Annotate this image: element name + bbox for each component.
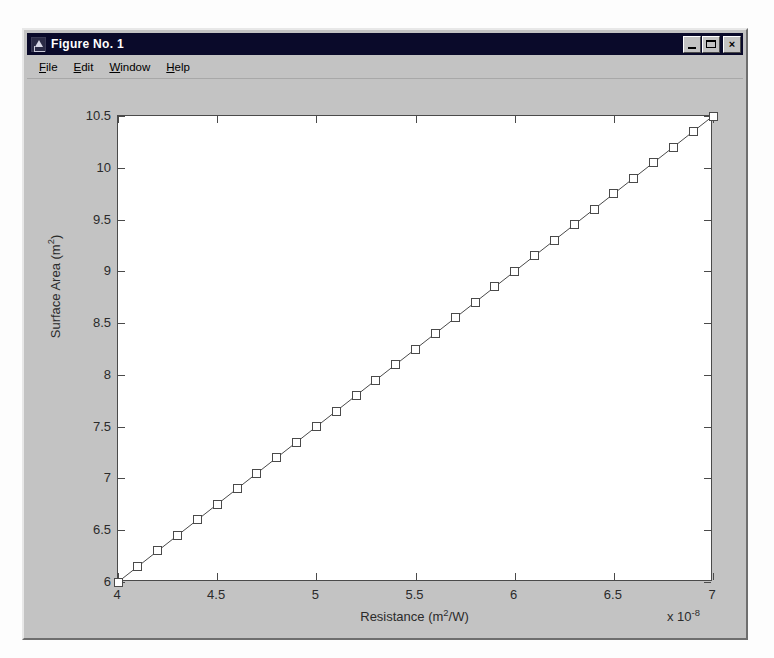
y-tick-label: 6.5 (69, 522, 111, 537)
x-tick-label: 6 (510, 587, 517, 602)
y-tick-label: 9 (69, 263, 111, 278)
x-axis-exponent-multiplier: x 10-8 (667, 609, 700, 624)
menu-item-edit[interactable]: Edit (67, 59, 103, 75)
y-tick-label: 8.5 (69, 315, 111, 330)
menu-help-rest: elp (175, 61, 190, 73)
close-button[interactable]: × (723, 36, 741, 53)
x-tick (713, 573, 714, 580)
window-controls: × (682, 36, 741, 53)
menu-bar: File Edit Window Help (27, 56, 743, 77)
menu-file-mnemonic: F (39, 61, 46, 73)
data-line (118, 116, 713, 582)
menu-window-rest: indow (120, 61, 150, 73)
maximize-button[interactable] (702, 36, 720, 53)
menu-edit-rest: dit (81, 61, 93, 73)
y-tick-label: 10.5 (69, 108, 111, 123)
menu-item-window[interactable]: Window (102, 59, 159, 75)
y-tick (118, 582, 125, 583)
title-bar: Figure No. 1 × (27, 33, 743, 55)
x-axis-label: Resistance (m2/W) (117, 609, 712, 624)
minimize-button[interactable] (683, 36, 701, 53)
x-tick-top (713, 116, 714, 123)
desktop-background: Figure No. 1 × File Edit (0, 0, 774, 658)
y-tick-label: 6 (69, 574, 111, 589)
maximize-icon (706, 40, 716, 48)
x-tick-label: 7 (708, 587, 715, 602)
x-tick-label: 5 (312, 587, 319, 602)
x-tick-label: 6.5 (604, 587, 622, 602)
y-tick-label: 7.5 (69, 418, 111, 433)
close-icon: × (724, 37, 740, 52)
figure-window: Figure No. 1 × File Edit (22, 28, 748, 640)
y-tick-label: 7 (69, 470, 111, 485)
figure-canvas[interactable]: 44.555.566.57 66.577.588.599.51010.5 Res… (27, 78, 743, 636)
window-title: Figure No. 1 (51, 37, 682, 51)
y-tick-label: 10 (69, 159, 111, 174)
menu-file-rest: ile (46, 61, 58, 73)
menu-item-help[interactable]: Help (159, 59, 199, 75)
menu-window-mnemonic: W (109, 61, 120, 73)
y-tick-label: 8 (69, 366, 111, 381)
matlab-figure-icon (31, 37, 46, 52)
x-tick-label: 5.5 (405, 587, 423, 602)
minimize-icon (688, 47, 696, 49)
menu-help-mnemonic: H (166, 61, 174, 73)
plot-axes[interactable] (117, 115, 712, 581)
y-tick-right (704, 582, 711, 583)
x-tick-label: 4 (113, 587, 120, 602)
menu-item-file[interactable]: File (32, 59, 67, 75)
x-tick-label: 4.5 (207, 587, 225, 602)
y-tick-label: 9.5 (69, 211, 111, 226)
y-axis-label: Surface Area (m2) (48, 187, 63, 387)
